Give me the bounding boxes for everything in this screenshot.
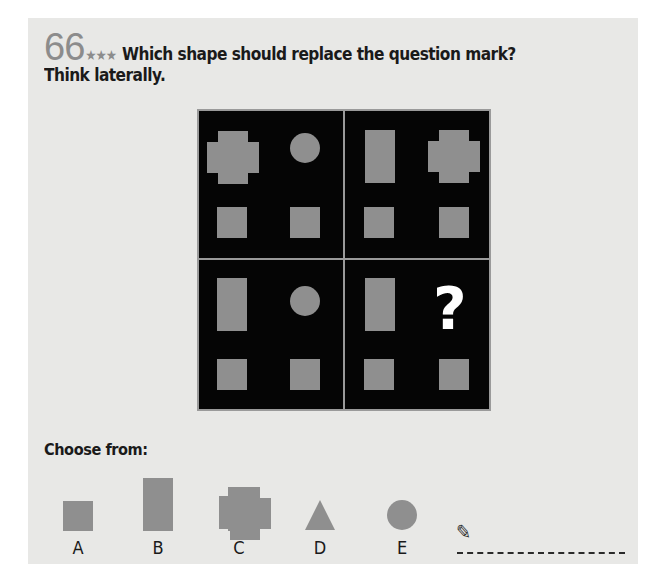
question-mark-icon: ? <box>433 280 467 338</box>
pencil-icon: ✎ <box>456 521 471 543</box>
quadrant-bottom-right: ? <box>345 260 489 409</box>
quadrant-top-right <box>345 111 489 258</box>
square-shape <box>439 207 469 238</box>
cross-shape <box>207 131 259 184</box>
answer-field[interactable] <box>457 552 625 554</box>
circle-shape <box>290 286 320 316</box>
option-e-circle[interactable] <box>387 500 417 530</box>
option-d-triangle[interactable] <box>305 500 335 530</box>
square-shape <box>439 359 469 390</box>
option-b-label[interactable]: B <box>145 537 172 558</box>
square-shape <box>217 359 247 390</box>
question-subtitle: Think laterally. <box>44 65 165 85</box>
difficulty-stars: ★★★ <box>85 47 116 63</box>
option-c-cross[interactable] <box>219 487 260 531</box>
square-shape <box>290 359 320 390</box>
square-shape <box>217 207 247 238</box>
option-b-rectangle[interactable] <box>143 478 173 531</box>
rectangle-shape <box>365 278 395 331</box>
quadrant-top-left <box>199 111 343 258</box>
option-a-square[interactable] <box>63 501 93 531</box>
option-e-label[interactable]: E <box>389 537 416 558</box>
puzzle-number: 66 <box>44 30 84 64</box>
puzzle-grid: ? <box>197 109 491 411</box>
square-shape <box>364 359 394 390</box>
option-a-label[interactable]: A <box>65 537 92 558</box>
circle-shape <box>290 133 320 163</box>
rectangle-shape <box>365 130 395 183</box>
square-shape <box>290 207 320 238</box>
rectangle-shape <box>217 278 247 331</box>
choices-label: Choose from: <box>44 440 148 459</box>
cross-shape <box>428 130 480 183</box>
quadrant-bottom-left <box>199 260 343 409</box>
option-d-label[interactable]: D <box>307 537 334 558</box>
option-c-label[interactable]: C <box>226 537 253 558</box>
square-shape <box>364 207 394 238</box>
question-text: Which shape should replace the question … <box>122 44 516 64</box>
puzzle-heading: 66★★★Which shape should replace the ques… <box>44 30 570 64</box>
